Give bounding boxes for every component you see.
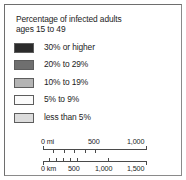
scale-label-km-0: 0 km <box>41 164 56 173</box>
scale-tick-miles <box>64 149 65 153</box>
scale-tick-miles <box>53 149 54 153</box>
legend-title: Percentage of infected adults ages 15 to… <box>16 14 174 35</box>
scale-tick-km <box>49 158 50 162</box>
legend-label: 30% or higher <box>44 41 95 54</box>
legend-swatch <box>14 95 34 105</box>
scale-axis-kilometers <box>43 161 147 162</box>
scale-label-km-500: 500 <box>68 164 80 173</box>
legend-row: 20% to 29% <box>14 58 176 75</box>
legend-swatch <box>14 78 34 88</box>
frame-notch <box>10 7 19 10</box>
legend-label: less than 5% <box>44 111 91 124</box>
scale-tick-km <box>56 158 57 162</box>
scale-tick-miles <box>74 149 75 153</box>
scale-labels-kilometers: 0 km 500 1,000 1,500 <box>39 164 171 173</box>
legend-swatch <box>14 43 34 53</box>
map-scale-bar: 0 mi 500 1,000 0 km 500 1,000 1,500 <box>39 137 171 173</box>
scale-label-mi-1000: 1,000 <box>127 137 144 146</box>
legend-title-line-2: ages 15 to 49 <box>16 24 174 34</box>
legend-label: 10% to 19% <box>44 76 88 89</box>
scale-tick-km <box>63 158 64 162</box>
map-legend-panel: Percentage of infected adults ages 15 to… <box>4 4 182 176</box>
legend-row: 10% to 19% <box>14 76 176 93</box>
scale-tick-km <box>77 158 78 162</box>
scale-tick-km <box>108 158 109 162</box>
legend-row: less than 5% <box>14 111 176 128</box>
scale-labels-miles: 0 mi 500 1,000 <box>39 137 171 146</box>
scale-label-mi-0: 0 mi <box>41 137 54 146</box>
scale-label-km-1000: 1,000 <box>95 164 112 173</box>
legend-class-list: 30% or higher 20% to 29% 10% to 19% 5% t… <box>14 41 176 128</box>
legend-label: 20% to 29% <box>44 58 88 71</box>
legend-row: 5% to 9% <box>14 93 176 110</box>
legend-swatch <box>14 60 34 70</box>
legend-title-line-1: Percentage of infected adults <box>16 14 174 24</box>
legend-label: 5% to 9% <box>44 93 79 106</box>
legend-swatch <box>14 113 34 123</box>
scale-tick-km <box>70 158 71 162</box>
scale-label-mi-500: 500 <box>88 137 100 146</box>
scale-label-km-1500: 1,500 <box>127 164 144 173</box>
scale-endcap-right-miles <box>146 146 147 150</box>
legend-row: 30% or higher <box>14 41 176 58</box>
scale-tick-miles <box>95 149 96 153</box>
scale-endcap-left-miles <box>43 146 44 150</box>
scale-tick-miles <box>85 149 86 153</box>
